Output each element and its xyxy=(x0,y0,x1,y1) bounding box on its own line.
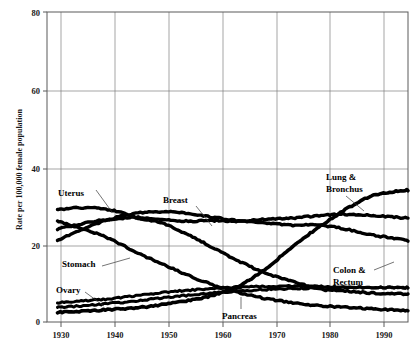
cancer-mortality-line-chart: 0 20 40 60 80 1930 1940 1950 1960 1970 1… xyxy=(0,0,418,353)
x-tick-label-1950: 1950 xyxy=(161,330,178,340)
series-label-lung-line2: Bronchus xyxy=(326,184,363,194)
y-tick-label-20: 20 xyxy=(32,241,41,251)
series-label-ovary: Ovary xyxy=(56,285,81,295)
y-tick-label-40: 40 xyxy=(32,164,41,174)
series-label-breast: Breast xyxy=(163,195,188,205)
x-axis-tick-labels: 1930 1940 1950 1960 1970 1980 1990 xyxy=(53,330,393,340)
y-axis-title: Rate per 100,000 female population xyxy=(15,108,24,230)
y-tick-label-80: 80 xyxy=(32,8,41,18)
chart-canvas: 0 20 40 60 80 1930 1940 1950 1960 1970 1… xyxy=(0,0,418,353)
x-axis-tick-marks xyxy=(61,322,384,327)
plot-background xyxy=(47,12,408,322)
x-tick-label-1940: 1940 xyxy=(107,330,124,340)
y-axis-tick-marks xyxy=(43,12,47,322)
x-tick-label-1970: 1970 xyxy=(269,330,286,340)
series-label-uterus: Uterus xyxy=(58,188,84,198)
x-tick-label-1990: 1990 xyxy=(376,330,393,340)
y-tick-label-60: 60 xyxy=(32,86,41,96)
x-tick-label-1960: 1960 xyxy=(215,330,232,340)
x-tick-label-1980: 1980 xyxy=(322,330,339,340)
x-tick-label-1930: 1930 xyxy=(53,330,70,340)
y-tick-label-0: 0 xyxy=(36,317,40,327)
series-label-stomach: Stomach xyxy=(62,259,96,269)
series-label-colon-line1: Colon & xyxy=(333,265,366,275)
series-label-colon-line2: Rectum xyxy=(333,277,363,287)
series-label-lung-line1: Lung & xyxy=(326,172,357,182)
y-axis-tick-labels: 0 20 40 60 80 xyxy=(32,8,41,327)
series-label-pancreas: Pancreas xyxy=(222,311,257,321)
